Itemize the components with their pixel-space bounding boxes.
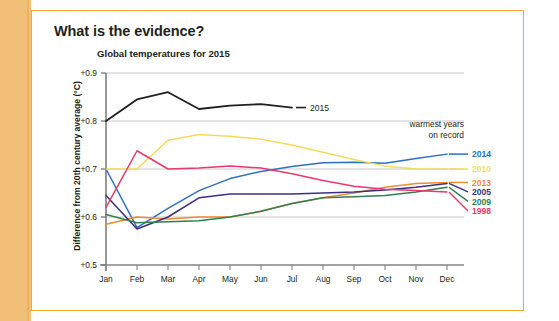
- y-tick-label: +0.8: [80, 116, 97, 126]
- legend-item-2009[interactable]: 2009: [472, 197, 491, 207]
- legend-item-2014[interactable]: 2014: [472, 149, 491, 159]
- x-tick-label: Oct: [378, 274, 392, 284]
- legend-connector-2005: [449, 183, 468, 192]
- content-card: What is the evidence? Global temperature…: [31, 10, 524, 311]
- series-line-1998: [106, 151, 447, 208]
- x-axis-ticks: JanFebMarAprMayJunJulAugSepOctNovDec: [99, 265, 454, 284]
- x-tick-label: Jan: [99, 274, 113, 284]
- legend-title-line1: warmest years: [409, 119, 464, 129]
- chart-plot-area: +0.5+0.6+0.7+0.8+0.9 JanFebMarAprMayJunJ…: [32, 11, 525, 312]
- legend-item-2005[interactable]: 2005: [472, 187, 491, 197]
- x-tick-label: Nov: [409, 274, 425, 284]
- page-root: What is the evidence? Global temperature…: [0, 0, 559, 321]
- left-band-stripe: [27, 0, 29, 321]
- x-tick-label: Jun: [254, 274, 268, 284]
- legend-item-2013[interactable]: 2013: [472, 178, 491, 188]
- y-axis-ticks: +0.5+0.6+0.7+0.8+0.9: [80, 68, 106, 270]
- y-tick-label: +0.6: [80, 212, 97, 222]
- x-tick-label: May: [222, 274, 239, 284]
- x-tick-label: Dec: [440, 274, 455, 284]
- series-line-2015: [106, 92, 292, 121]
- x-tick-label: Feb: [130, 274, 145, 284]
- left-orange-band: [0, 0, 31, 321]
- legend-item-1998[interactable]: 1998: [472, 206, 491, 216]
- x-tick-label: Sep: [347, 274, 362, 284]
- y-tick-label: +0.9: [80, 68, 97, 78]
- legend-title-line2: on record: [429, 130, 465, 140]
- series-line-2010: [106, 134, 447, 169]
- x-tick-label: Mar: [161, 274, 176, 284]
- chart-legend: warmest yearson record201420102013200520…: [409, 119, 492, 216]
- x-tick-label: Jul: [287, 274, 298, 284]
- series-lines: [106, 92, 447, 229]
- y-tick-label: +0.5: [80, 260, 97, 270]
- x-tick-label: Aug: [316, 274, 331, 284]
- x-tick-label: Apr: [192, 274, 205, 284]
- line-chart: +0.5+0.6+0.7+0.8+0.9 JanFebMarAprMayJunJ…: [32, 11, 525, 312]
- legend-item-2010[interactable]: 2010: [472, 164, 491, 174]
- chart-annotations: 2015: [296, 103, 329, 113]
- y-tick-label: +0.7: [80, 164, 97, 174]
- annotation-2015-label: 2015: [310, 103, 329, 113]
